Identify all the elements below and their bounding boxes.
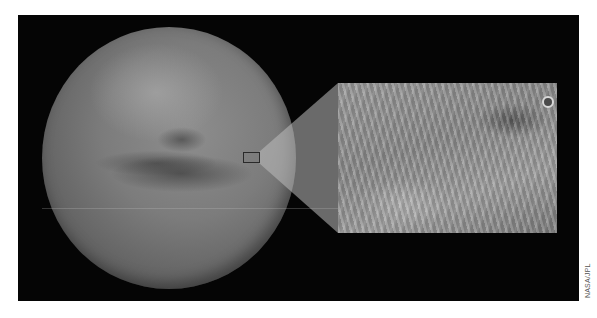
image-credit: NASA/JPL [584, 263, 591, 298]
zoom-region-marker [243, 152, 260, 163]
crater-feature [542, 96, 554, 108]
surface-closeup-inset [338, 83, 557, 233]
